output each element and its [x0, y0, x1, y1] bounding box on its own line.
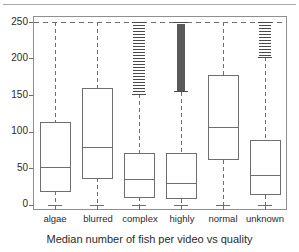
box-normal	[208, 22, 238, 205]
box-unknown	[250, 22, 280, 205]
outliers-complex	[132, 22, 146, 94]
y-axis-ticks	[29, 22, 33, 205]
figure-container: 0 50 100 150 200 250 algae blurred compl…	[0, 0, 299, 252]
box-complex	[124, 22, 154, 205]
box-algae	[40, 22, 70, 205]
outliers-highly	[174, 22, 188, 92]
box-highly	[166, 22, 196, 205]
outliers-unknown	[258, 22, 272, 57]
x-axis-ticks	[55, 206, 265, 210]
boxplot-svg	[0, 0, 299, 252]
box-blurred	[82, 22, 112, 205]
